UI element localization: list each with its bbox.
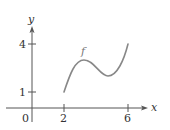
tick-label-x-6: 6 (124, 113, 131, 124)
tick-label-y-1: 1 (19, 87, 26, 98)
function-plot (0, 0, 170, 130)
tick-label-x-2: 2 (60, 113, 67, 124)
tick-label-y-4: 4 (19, 39, 26, 50)
curve-f (64, 44, 128, 92)
y-axis-arrow-icon (30, 26, 35, 33)
y-axis-label: y (28, 14, 34, 25)
origin-label: 0 (22, 113, 29, 124)
x-axis-label: x (151, 102, 157, 113)
curve-label-f: f (81, 46, 85, 57)
